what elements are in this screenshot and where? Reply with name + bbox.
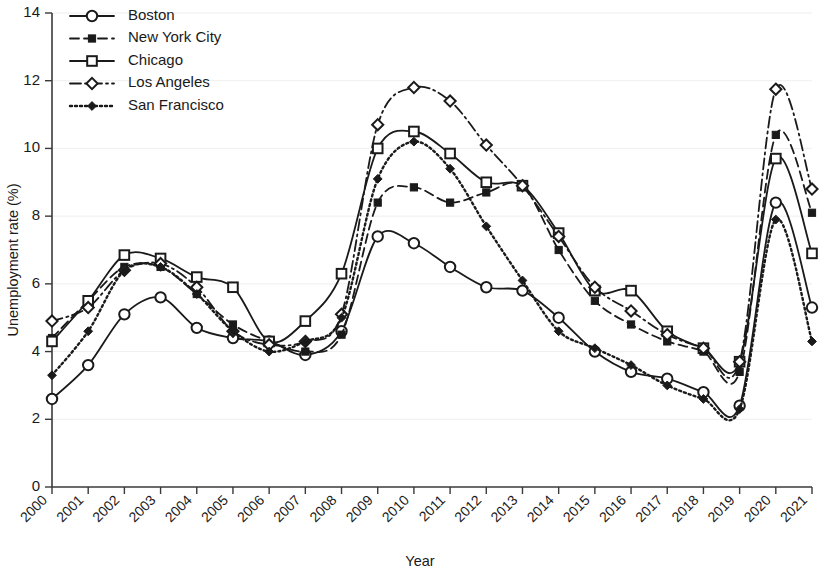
y-axis-ticks: 02468101214: [23, 3, 52, 494]
x-tick-label: 2015: [560, 492, 593, 525]
data-point-marker: [88, 102, 97, 111]
data-point-marker: [373, 231, 383, 241]
data-point-marker: [807, 302, 817, 312]
legend-item-san-francisco[interactable]: San Francisco: [70, 96, 224, 113]
data-point-marker: [373, 175, 382, 184]
series-boston: [47, 197, 817, 417]
data-point-marker: [483, 189, 490, 196]
x-tick-label: 2003: [125, 492, 158, 525]
y-tick-label: 8: [32, 206, 40, 223]
x-tick-label: 2014: [523, 492, 556, 525]
data-point-marker: [88, 35, 95, 42]
y-tick-label: 12: [23, 71, 40, 88]
x-tick-label: 2010: [379, 492, 412, 525]
data-point-marker: [409, 127, 419, 137]
x-axis-ticks: 2000200120022003200420052006200720082009…: [17, 487, 812, 525]
data-point-marker: [555, 246, 562, 253]
data-point-marker: [120, 250, 130, 260]
data-point-marker: [46, 316, 57, 327]
chart-legend: BostonNew York CityChicagoLos AngelesSan…: [70, 6, 224, 113]
data-point-marker: [47, 337, 57, 347]
series-line: [52, 130, 812, 373]
data-point-marker: [771, 197, 781, 207]
x-tick-label: 2012: [451, 492, 484, 525]
y-tick-label: 4: [32, 342, 40, 359]
y-axis-title: Unemployment rate (%): [5, 183, 21, 336]
data-point-marker: [591, 297, 598, 304]
x-tick-label: 2004: [162, 492, 195, 525]
x-tick-label: 2009: [342, 492, 375, 525]
data-point-marker: [119, 309, 129, 319]
x-tick-label: 2006: [234, 492, 267, 525]
y-tick-label: 10: [23, 138, 40, 155]
data-point-marker: [302, 348, 309, 355]
x-tick-label: 2011: [416, 492, 449, 525]
data-point-marker: [228, 282, 238, 292]
data-point-marker: [47, 394, 57, 404]
data-point-marker: [373, 144, 383, 154]
x-tick-label: 2001: [53, 492, 86, 525]
data-point-marker: [372, 119, 383, 130]
data-point-marker: [337, 269, 347, 279]
data-point-marker: [445, 149, 455, 159]
x-tick-label: 2017: [632, 492, 665, 525]
data-point-marker: [409, 238, 419, 248]
x-axis-title: Year: [405, 553, 434, 569]
x-tick-label: 2019: [704, 492, 737, 525]
data-point-marker: [301, 316, 311, 326]
data-point-marker: [627, 321, 634, 328]
data-point-marker: [772, 131, 779, 138]
legend-label: San Francisco: [128, 96, 224, 113]
data-point-marker: [410, 184, 417, 191]
data-point-marker: [155, 292, 165, 302]
data-point-marker: [771, 154, 781, 164]
legend-label: Los Angeles: [128, 73, 210, 90]
data-point-marker: [87, 56, 97, 66]
data-point-marker: [83, 360, 93, 370]
data-point-marker: [553, 313, 563, 323]
x-tick-label: 2021: [777, 492, 810, 525]
legend-item-new-york-city[interactable]: New York City: [70, 28, 222, 45]
y-tick-label: 2: [32, 409, 40, 426]
series-line: [52, 201, 812, 417]
data-point-marker: [626, 286, 636, 296]
data-point-marker: [625, 305, 636, 316]
data-point-marker: [481, 177, 491, 187]
data-point-marker: [338, 331, 345, 338]
chart-figure: 02468101214 2000200120022003200420052006…: [0, 0, 820, 572]
x-tick-label: 2008: [306, 492, 339, 525]
legend-item-los-angeles[interactable]: Los Angeles: [70, 73, 210, 90]
x-tick-label: 2020: [741, 492, 774, 525]
series-chicago: [47, 127, 817, 373]
y-tick-label: 14: [23, 3, 40, 20]
series-los-angeles: [46, 82, 817, 378]
series-san-francisco: [48, 137, 817, 420]
data-point-marker: [87, 11, 97, 21]
legend-label: Chicago: [128, 51, 183, 68]
data-point-marker: [481, 282, 491, 292]
x-tick-label: 2000: [17, 492, 50, 525]
data-point-marker: [806, 183, 817, 194]
data-point-marker: [408, 82, 419, 93]
x-tick-label: 2007: [270, 492, 303, 525]
legend-label: Boston: [128, 6, 175, 23]
data-point-marker: [808, 209, 815, 216]
unemployment-line-chart: 02468101214 2000200120022003200420052006…: [0, 0, 820, 572]
x-tick-label: 2002: [89, 492, 122, 525]
series-line: [52, 142, 812, 421]
data-point-marker: [410, 137, 419, 146]
legend-item-boston[interactable]: Boston: [70, 6, 175, 23]
series-line: [52, 85, 812, 378]
y-tick-label: 0: [32, 477, 40, 494]
x-tick-label: 2013: [487, 492, 520, 525]
data-point-marker: [446, 199, 453, 206]
x-tick-label: 2016: [596, 492, 629, 525]
data-series: [46, 82, 817, 420]
legend-label: New York City: [128, 28, 222, 45]
data-point-marker: [86, 78, 97, 89]
data-point-marker: [807, 249, 817, 259]
data-point-marker: [192, 323, 202, 333]
data-point-marker: [374, 199, 381, 206]
legend-item-chicago[interactable]: Chicago: [70, 51, 183, 68]
data-point-marker: [445, 262, 455, 272]
